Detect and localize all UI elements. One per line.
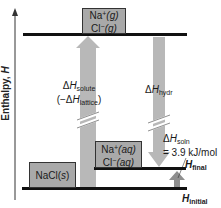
solid-nacl-box: NaCl(s) [29, 162, 76, 188]
hydration-label: ΔHhydr [145, 84, 173, 98]
y-axis-label: Enthalpy, H [0, 59, 11, 129]
solute-label: ΔHsolute (−ΔHlattice) [50, 80, 108, 108]
h-final-label: Hfinal [185, 159, 207, 173]
gas-ions-box: Na+(g) Cl−(g) [82, 8, 126, 34]
aqueous-ions-box: Na+(aq) Cl−(aq) [95, 141, 142, 168]
gas-ions-line1: Na+(g) [89, 8, 118, 21]
h-initial-label: Hinitial [182, 193, 208, 207]
solution-label: ΔHsoln = 3.9 kJ/mol [163, 133, 217, 158]
solution-arrow-icon [169, 171, 185, 187]
gas-ions-line2: Cl−(g) [91, 21, 117, 34]
y-axis-arrowhead-icon [12, 8, 18, 16]
